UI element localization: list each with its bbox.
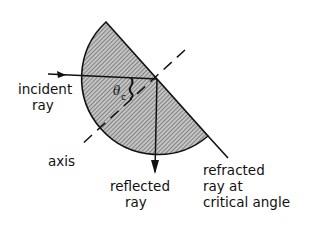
angle-subscript: c bbox=[121, 92, 126, 102]
incident-arrow-icon bbox=[57, 71, 66, 78]
angle-symbol: θ bbox=[113, 84, 121, 98]
reflected-ray-label-1: reflected bbox=[110, 178, 170, 194]
semicircular-block bbox=[82, 22, 208, 154]
refracted-ray-label-2: ray at bbox=[203, 178, 243, 194]
reflected-ray-label-2: ray bbox=[125, 194, 147, 210]
refracted-ray-label-1: refracted bbox=[203, 162, 265, 178]
refracted-ray-line bbox=[208, 136, 228, 158]
critical-angle-diagram: θ c incident ray axis reflected ray refr… bbox=[0, 0, 314, 228]
incident-ray-label-1: incident bbox=[18, 81, 72, 97]
refracted-ray-label-3: critical angle bbox=[203, 194, 290, 210]
reflected-arrow-icon bbox=[151, 160, 159, 174]
axis-label: axis bbox=[48, 153, 75, 169]
incident-ray-label-2: ray bbox=[32, 97, 54, 113]
